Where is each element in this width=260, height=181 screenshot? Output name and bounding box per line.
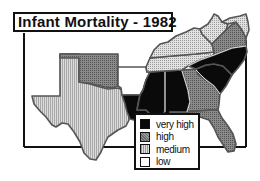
legend-label: low	[156, 156, 170, 167]
legend-label: high	[156, 131, 174, 142]
legend-label: very high	[156, 119, 194, 130]
map-figure: Infant Mortality - 1982 very high high m…	[0, 0, 260, 181]
swatch-low	[140, 157, 150, 167]
swatch-high	[140, 132, 150, 142]
legend-item-very-high: very high	[140, 118, 198, 131]
swatch-medium	[140, 144, 150, 154]
legend-item-low: low	[140, 156, 198, 169]
legend: very high high medium low	[134, 113, 200, 170]
swatch-very-high	[140, 119, 150, 129]
legend-label: medium	[156, 144, 190, 155]
legend-item-high: high	[140, 131, 198, 144]
legend-item-medium: medium	[140, 143, 198, 156]
map-title: Infant Mortality - 1982	[13, 12, 173, 32]
